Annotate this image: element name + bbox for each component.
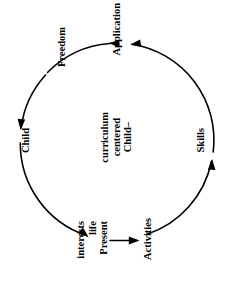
- node-label-skills: Skills: [196, 128, 207, 153]
- arrowhead-activities: [129, 237, 140, 245]
- arrowhead-skills: [208, 159, 216, 170]
- present-line-3: interests: [75, 221, 87, 259]
- center-label-child-centered-curriculum: Child– centered curriculum: [99, 112, 134, 163]
- edge-activities-to-skills: [147, 161, 212, 235]
- center-line-3: curriculum: [99, 112, 111, 163]
- node-label-present-life-interests: Present life interests: [75, 221, 110, 259]
- center-line-2: centered: [111, 118, 123, 156]
- node-label-activities: Activities: [143, 218, 154, 260]
- node-label-freedom: Freedom: [57, 27, 68, 67]
- center-line-1: Child–: [122, 122, 134, 152]
- node-label-application: Application: [112, 3, 123, 56]
- present-line-1: Present: [98, 221, 110, 255]
- arrowhead-application: [130, 40, 141, 48]
- node-label-child: Child: [21, 128, 32, 153]
- present-line-2: life: [87, 221, 99, 235]
- cycle-diagram-figure: Application Freedom Child Present life i…: [0, 0, 234, 290]
